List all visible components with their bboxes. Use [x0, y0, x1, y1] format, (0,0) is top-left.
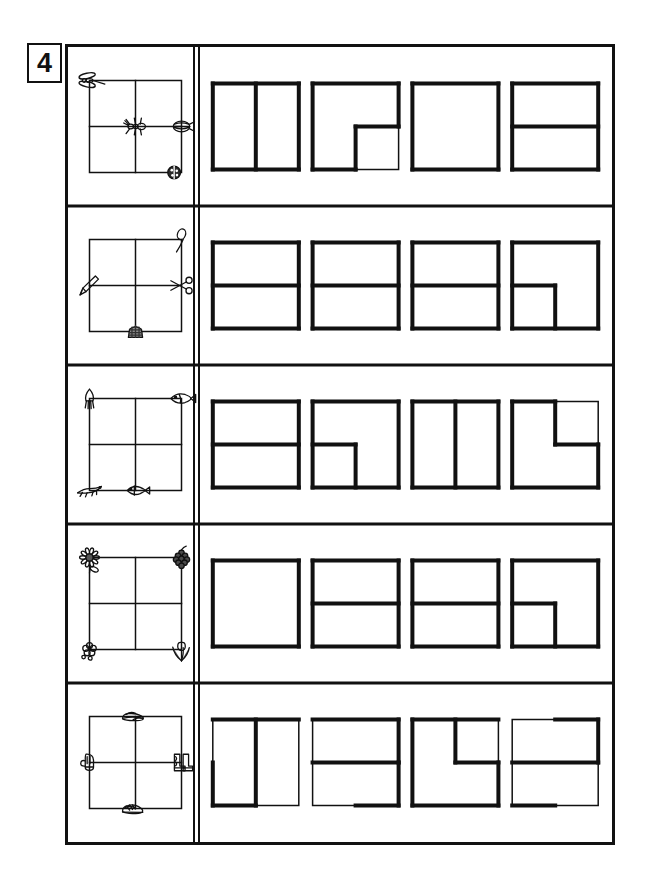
answer-box[interactable]: [313, 561, 399, 647]
answer-box[interactable]: [512, 402, 598, 488]
answer-box[interactable]: [213, 84, 299, 170]
worksheet-grid: [68, 47, 612, 842]
answer-box-outline: [213, 561, 299, 647]
answer-box[interactable]: [412, 720, 498, 806]
ladybug-icon: [168, 166, 181, 179]
exercise-number: 4: [37, 50, 52, 77]
answer-box[interactable]: [412, 243, 498, 329]
row-3: [78, 389, 599, 497]
prompt-grid: [90, 399, 182, 491]
beetle-icon: [173, 121, 194, 132]
answer-box[interactable]: [512, 243, 598, 329]
row-5: [81, 712, 598, 813]
worksheet-table: [65, 44, 615, 845]
answer-box[interactable]: [412, 402, 498, 488]
answer-box[interactable]: [512, 720, 598, 806]
answer-box[interactable]: [213, 243, 299, 329]
prompt-grid: [90, 558, 182, 650]
row-4: [80, 546, 599, 661]
answer-box[interactable]: [213, 402, 299, 488]
answer-box[interactable]: [213, 720, 299, 806]
exercise-number-badge: 4: [27, 43, 62, 83]
prompt-grid: [90, 240, 182, 332]
sunflower-icon: [80, 548, 100, 574]
answer-box[interactable]: [313, 243, 399, 329]
row-2: [80, 228, 598, 338]
grapes-icon: [173, 546, 189, 568]
lizard-icon: [78, 486, 102, 496]
thimble-icon: [128, 326, 142, 338]
answer-box[interactable]: [512, 84, 598, 170]
answer-box[interactable]: [313, 402, 399, 488]
flatfish-icon: [171, 394, 196, 403]
worksheet-title: Shape partition matching worksheet: [0, 0, 1, 1]
answer-box[interactable]: [213, 561, 299, 647]
answer-box[interactable]: [512, 561, 598, 647]
prompt-grid: [90, 81, 182, 173]
worksheet-page: 4 Shape partition matching worksheet: [0, 0, 647, 887]
prompt-grid: [90, 717, 182, 809]
answer-box[interactable]: [412, 561, 498, 647]
answer-box[interactable]: [412, 84, 498, 170]
answer-box[interactable]: [313, 84, 399, 170]
answer-box-outline: [412, 84, 498, 170]
row-1: [79, 72, 599, 179]
answer-box[interactable]: [313, 720, 399, 806]
